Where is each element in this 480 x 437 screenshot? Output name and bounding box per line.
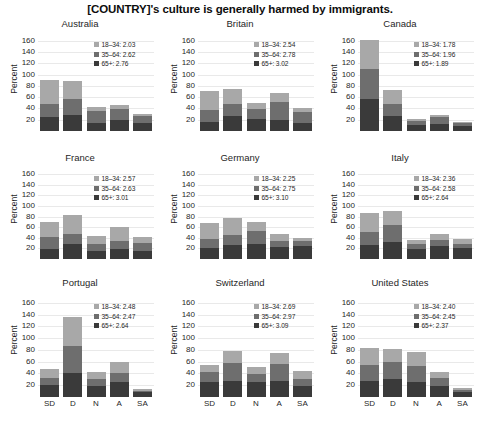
bar-n xyxy=(87,372,106,397)
y-tick-label: 120 xyxy=(329,59,355,67)
legend-swatch-icon xyxy=(414,314,419,319)
legend-swatch-icon xyxy=(254,304,259,309)
y-tick-label: 20 xyxy=(329,244,355,252)
bar-segment-18-34 xyxy=(270,353,289,364)
legend-swatch-icon xyxy=(254,42,259,47)
bar-sa xyxy=(453,122,472,131)
panel-title: Switzerland xyxy=(160,277,320,288)
bar-segment-65plus xyxy=(133,251,152,259)
y-tick-label: 120 xyxy=(9,191,35,199)
bar-segment-35-64 xyxy=(270,102,289,120)
bar-segment-18-34 xyxy=(200,365,219,372)
legend-item: 35–64: 2.62 xyxy=(94,50,135,60)
panel-united-states: United StatesPercent16014012010080604020… xyxy=(320,277,480,437)
bar-segment-18-34 xyxy=(223,218,242,235)
bar-segment-65plus xyxy=(430,124,449,131)
legend-item: 65+: 2.64 xyxy=(414,193,455,203)
bar-segment-35-64 xyxy=(383,362,402,379)
bar-sa xyxy=(133,389,152,397)
bar-segment-18-34 xyxy=(430,115,449,117)
legend-label: 35–64: 2.63 xyxy=(102,184,136,194)
bar-segment-18-34 xyxy=(430,372,449,378)
bar-segment-35-64 xyxy=(40,104,59,117)
legend-label: 65+: 2.64 xyxy=(422,193,449,203)
bar-n xyxy=(407,352,426,397)
panel-title: Italy xyxy=(320,152,480,163)
legend-swatch-icon xyxy=(254,176,259,181)
bar-sd xyxy=(360,348,379,397)
x-tick-label: A xyxy=(428,399,450,408)
y-tick-label: 100 xyxy=(9,71,35,79)
y-tick-label: 160 xyxy=(329,299,355,307)
legend-item: 35–64: 2.58 xyxy=(414,184,455,194)
y-tick-label: 60 xyxy=(169,223,195,231)
bar-sd xyxy=(200,91,219,131)
y-tick-label: 80 xyxy=(9,82,35,90)
legend-item: 65+: 1.89 xyxy=(414,59,455,69)
bar-segment-35-64 xyxy=(200,372,219,381)
bar-segment-18-34 xyxy=(293,371,312,379)
bar-segment-18-34 xyxy=(110,227,129,241)
panel-title: Australia xyxy=(0,18,160,29)
y-tick-label: 60 xyxy=(169,93,195,101)
legend-label: 18–34: 2.69 xyxy=(262,302,296,312)
legend-item: 18–34: 2.57 xyxy=(94,174,135,184)
legend-item: 18–34: 2.36 xyxy=(414,174,455,184)
bar-a xyxy=(110,105,129,131)
bar-segment-65plus xyxy=(63,115,82,131)
bar-segment-65plus xyxy=(133,123,152,131)
bar-segment-18-34 xyxy=(453,388,472,390)
legend-item: 65+: 3.10 xyxy=(254,193,295,203)
y-tick-label: 80 xyxy=(169,346,195,354)
bar-segment-18-34 xyxy=(383,211,402,225)
bar-segment-18-34 xyxy=(453,239,472,243)
y-tick-label: 40 xyxy=(169,234,195,242)
bar-segment-18-34 xyxy=(453,122,472,123)
bar-segment-65plus xyxy=(223,116,242,131)
legend: 18–34: 2.5735–64: 2.6365+: 3.01 xyxy=(94,174,135,203)
bar-segment-35-64 xyxy=(360,365,379,380)
legend-swatch-icon xyxy=(94,61,99,66)
y-tick-label: 160 xyxy=(9,170,35,178)
bar-segment-35-64 xyxy=(270,241,289,247)
legend-swatch-icon xyxy=(94,195,99,200)
legend-label: 65+: 2.76 xyxy=(102,59,129,69)
legend-swatch-icon xyxy=(254,195,259,200)
legend-item: 65+: 2.76 xyxy=(94,59,135,69)
panel-canada: CanadaPercent1601401201008060402018–34: … xyxy=(320,18,480,152)
bar-segment-65plus xyxy=(453,126,472,131)
y-tick-label: 100 xyxy=(169,71,195,79)
y-tick-label: 40 xyxy=(169,369,195,377)
y-tick-label: 60 xyxy=(329,93,355,101)
y-tick-label: 140 xyxy=(9,181,35,189)
bar-segment-65plus xyxy=(63,244,82,259)
bar-a xyxy=(270,234,289,259)
y-tick-label: 120 xyxy=(9,59,35,67)
y-tick-label: 20 xyxy=(9,381,35,389)
legend-label: 65+: 3.02 xyxy=(262,59,289,69)
bar-segment-18-34 xyxy=(87,372,106,379)
legend-item: 65+: 2.37 xyxy=(414,321,455,331)
panel-portugal: PortugalPercent1601401201008060402018–34… xyxy=(0,277,160,437)
y-tick-label: 100 xyxy=(169,334,195,342)
legend-label: 35–64: 2.62 xyxy=(102,50,136,60)
legend-swatch-icon xyxy=(414,304,419,309)
bar-segment-35-64 xyxy=(383,225,402,242)
legend-swatch-icon xyxy=(414,195,419,200)
bar-a xyxy=(270,353,289,397)
y-tick-label: 140 xyxy=(329,311,355,319)
bar-segment-35-64 xyxy=(110,241,129,249)
figure-title: [COUNTRY]'s culture is generally harmed … xyxy=(0,3,480,15)
bar-a xyxy=(430,115,449,131)
y-tick-label: 40 xyxy=(9,104,35,112)
bar-a xyxy=(430,372,449,397)
bar-segment-35-64 xyxy=(87,244,106,251)
bar-d xyxy=(63,81,82,131)
bar-segment-35-64 xyxy=(133,243,152,251)
legend-swatch-icon xyxy=(94,186,99,191)
bar-segment-65plus xyxy=(200,382,219,397)
legend-item: 35–64: 2.45 xyxy=(414,312,455,322)
bar-segment-18-34 xyxy=(430,234,449,241)
y-tick-label: 20 xyxy=(9,244,35,252)
legend-label: 18–34: 2.57 xyxy=(102,174,136,184)
